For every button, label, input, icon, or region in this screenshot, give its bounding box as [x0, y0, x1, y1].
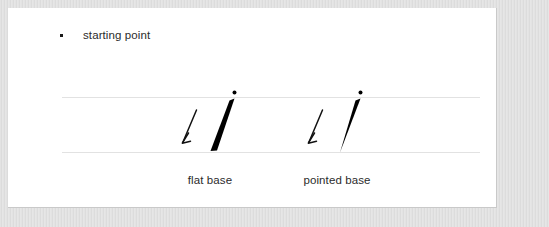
stroke-direction-arrow-icon — [308, 110, 322, 143]
square-bullet-icon — [60, 34, 63, 37]
starting-point-dot — [359, 91, 363, 95]
bullet-list-item: starting point — [60, 30, 150, 42]
pen-stroke-flat-base — [211, 99, 235, 152]
pen-stroke-pointed-base — [340, 99, 361, 153]
starting-point-dot — [233, 91, 237, 95]
top-guide-line — [62, 97, 480, 98]
baseline-guide-line — [62, 152, 480, 153]
bullet-item-label: starting point — [83, 30, 150, 42]
stroke-diagram-pointed-base — [284, 84, 394, 164]
stroke-direction-arrow-icon — [182, 110, 196, 143]
caption-pointed-base: pointed base — [257, 175, 417, 187]
outer-frame: starting point — [0, 0, 549, 227]
stroke-diagram-flat-base — [158, 84, 268, 164]
worksheet-card: starting point — [8, 8, 496, 207]
